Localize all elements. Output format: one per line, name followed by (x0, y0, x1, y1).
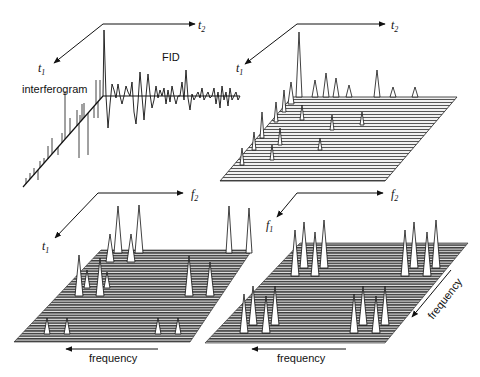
svg-text:t2: t2 (198, 18, 205, 34)
axis-t1: t1 (38, 24, 103, 77)
interferogram-label: interferogram (22, 83, 87, 95)
axis-t2: t2 (297, 18, 398, 34)
svg-text:t1: t1 (38, 61, 45, 77)
axis-f2: f2 (98, 187, 198, 203)
panel-time-domain-fid: t2 t1 FID interferogram (22, 18, 240, 187)
interferogram-spikes (26, 80, 100, 184)
panel-frequency-domain: f2 f1 frequency frequency (205, 187, 468, 364)
svg-text:f1: f1 (266, 218, 273, 234)
svg-text:f2: f2 (391, 187, 398, 203)
panel-time-domain-2d: t2 t1 (220, 18, 457, 181)
svg-text:f2: f2 (191, 187, 198, 203)
frequency-label: frequency (89, 352, 138, 364)
axis-t1: t1 (42, 193, 98, 255)
svg-text:t1: t1 (236, 61, 243, 77)
axis-f2: f2 (297, 187, 398, 203)
svg-text:t2: t2 (391, 18, 398, 34)
axis-t1: t1 (236, 24, 297, 77)
2d-nmr-processing-diagram: t2 t1 FID interferogram (0, 0, 480, 377)
fid-trace (103, 30, 240, 128)
axis-t2: t2 (103, 18, 205, 34)
frequency-label-f2: frequency (277, 352, 326, 364)
fid-label: FID (162, 51, 180, 63)
mixed-domain-plane (14, 250, 252, 342)
axis-f1: f1 (266, 193, 297, 234)
svg-text:t1: t1 (42, 239, 49, 255)
time-domain-matrix-plane (220, 97, 457, 181)
